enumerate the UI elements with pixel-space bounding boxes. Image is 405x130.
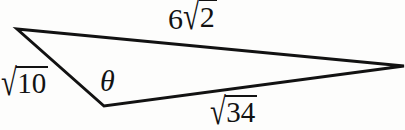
radical-sign-icon: √ bbox=[1, 63, 17, 101]
radical-bottom: √34 bbox=[210, 97, 257, 129]
radical-top: √2 bbox=[183, 1, 217, 34]
edge-label-top-radicand: 2 bbox=[199, 0, 217, 32]
radical-sign-icon: √ bbox=[210, 92, 226, 130]
edge-label-top: 6√2 bbox=[168, 1, 217, 34]
radical-sign-icon: √ bbox=[183, 0, 199, 35]
edge-label-bottom-radicand: 34 bbox=[225, 95, 257, 127]
angle-label-theta: θ bbox=[100, 66, 115, 96]
edge-label-left: √10 bbox=[1, 68, 48, 100]
edge-label-bottom: √34 bbox=[210, 97, 257, 129]
edge-label-left-radicand: 10 bbox=[16, 66, 48, 98]
radical-left: √10 bbox=[1, 68, 48, 100]
triangle-diagram: 6√2 √10 √34 θ bbox=[0, 0, 405, 130]
edge-label-top-coefficient: 6 bbox=[168, 4, 183, 34]
